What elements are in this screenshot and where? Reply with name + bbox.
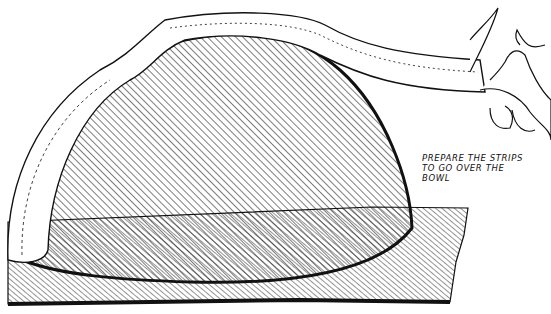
bowl: [22, 34, 412, 282]
illustration-canvas: PREPARE THE STRIPS TO GO OVER THE BOWL: [0, 0, 551, 314]
caption-text: PREPARE THE STRIPS TO GO OVER THE BOWL: [422, 153, 551, 183]
